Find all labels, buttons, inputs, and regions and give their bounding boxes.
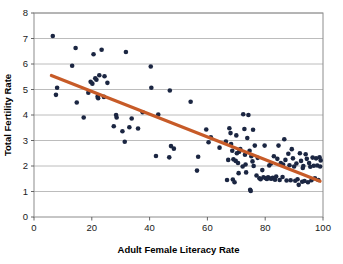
data-point bbox=[244, 170, 249, 175]
y-tick-label: 5 bbox=[23, 84, 28, 95]
data-point bbox=[195, 168, 200, 173]
data-point bbox=[74, 100, 79, 105]
y-tick-label: 8 bbox=[23, 7, 28, 18]
data-point bbox=[296, 183, 301, 188]
chart-background bbox=[0, 0, 343, 264]
data-point bbox=[274, 174, 279, 179]
data-point bbox=[287, 163, 292, 168]
x-tick-label: 60 bbox=[202, 222, 213, 233]
data-point bbox=[94, 78, 99, 83]
data-point bbox=[50, 34, 55, 39]
data-point bbox=[230, 148, 235, 153]
data-point bbox=[289, 147, 294, 152]
data-point bbox=[99, 47, 104, 52]
data-point bbox=[276, 143, 281, 148]
data-point bbox=[242, 127, 247, 132]
data-point bbox=[96, 96, 101, 101]
y-tick-label: 0 bbox=[23, 211, 28, 222]
data-point bbox=[284, 178, 289, 183]
data-point bbox=[172, 146, 177, 151]
x-tick-label: 40 bbox=[144, 222, 155, 233]
data-point bbox=[73, 46, 78, 51]
data-point bbox=[206, 140, 211, 145]
data-point bbox=[54, 93, 59, 98]
data-point bbox=[245, 136, 250, 141]
data-point bbox=[225, 178, 230, 183]
x-axis-title: Adult Female Literacy Rate bbox=[118, 244, 240, 255]
data-point bbox=[246, 113, 251, 118]
data-point bbox=[91, 52, 96, 57]
data-point bbox=[149, 85, 154, 90]
y-tick-label: 2 bbox=[23, 160, 28, 171]
data-point bbox=[252, 143, 257, 148]
data-point bbox=[234, 133, 239, 138]
data-point bbox=[286, 151, 291, 156]
data-point bbox=[248, 189, 253, 194]
data-point bbox=[129, 116, 134, 121]
data-point bbox=[97, 73, 102, 78]
data-point bbox=[303, 152, 308, 157]
y-tick-label: 1 bbox=[23, 186, 28, 197]
data-point bbox=[241, 112, 246, 117]
data-point bbox=[243, 162, 248, 167]
data-point bbox=[283, 158, 288, 163]
data-point bbox=[318, 158, 323, 163]
data-point bbox=[280, 175, 285, 180]
data-point bbox=[148, 64, 153, 69]
data-point bbox=[70, 63, 75, 68]
y-axis-title: Total Fertility Rate bbox=[2, 74, 13, 156]
data-point bbox=[305, 157, 310, 162]
data-point bbox=[260, 168, 265, 173]
data-point bbox=[204, 127, 209, 132]
data-point bbox=[122, 139, 127, 144]
data-point bbox=[295, 177, 300, 182]
y-tick-label: 3 bbox=[23, 135, 28, 146]
data-point bbox=[90, 81, 95, 86]
data-point bbox=[318, 164, 323, 169]
data-point bbox=[105, 81, 110, 86]
data-point bbox=[111, 124, 116, 129]
data-point bbox=[262, 143, 267, 148]
y-tick-label: 4 bbox=[23, 109, 28, 120]
y-tick-label: 6 bbox=[23, 58, 28, 69]
data-point bbox=[228, 131, 233, 136]
data-point bbox=[291, 156, 296, 161]
data-point bbox=[288, 178, 293, 183]
data-point bbox=[136, 126, 141, 131]
data-point bbox=[120, 129, 125, 134]
x-tick-label: 100 bbox=[315, 222, 331, 233]
data-point bbox=[168, 88, 173, 93]
data-point bbox=[300, 166, 305, 171]
data-point bbox=[294, 161, 299, 166]
data-point bbox=[114, 115, 119, 120]
data-point bbox=[232, 180, 237, 185]
y-tick-label: 7 bbox=[23, 33, 28, 44]
scatter-chart: 012345678 020406080100 Adult Female Lite… bbox=[0, 0, 343, 264]
data-point bbox=[236, 171, 241, 176]
data-point bbox=[217, 145, 222, 150]
data-point bbox=[81, 115, 86, 120]
data-point bbox=[55, 85, 60, 90]
chart-svg: 012345678 020406080100 Adult Female Lite… bbox=[0, 0, 343, 264]
data-point bbox=[298, 151, 303, 156]
data-point bbox=[251, 164, 256, 169]
data-point bbox=[102, 74, 107, 79]
data-point bbox=[124, 50, 129, 55]
data-point bbox=[127, 125, 132, 130]
data-point bbox=[282, 137, 287, 142]
data-point bbox=[250, 159, 255, 164]
x-tick-label: 80 bbox=[260, 222, 271, 233]
data-point bbox=[299, 159, 304, 164]
data-point bbox=[275, 157, 280, 162]
data-point bbox=[167, 155, 172, 160]
x-tick-label: 0 bbox=[31, 222, 36, 233]
data-point bbox=[196, 155, 201, 160]
x-tick-label: 20 bbox=[87, 222, 98, 233]
data-point bbox=[154, 154, 159, 159]
data-point bbox=[188, 99, 193, 104]
data-point bbox=[251, 127, 256, 132]
data-point bbox=[236, 161, 241, 166]
data-point bbox=[226, 158, 231, 163]
data-point bbox=[227, 126, 232, 131]
